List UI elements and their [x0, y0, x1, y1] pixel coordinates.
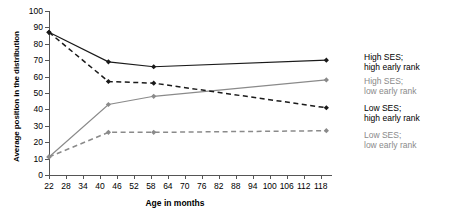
- legend-label-line2: low early rank: [364, 86, 416, 96]
- legend-label-line1: High SES;: [364, 76, 416, 86]
- data-point-marker: [324, 58, 329, 63]
- y-tick-label: 70: [21, 55, 43, 65]
- legend-label-line2: low early rank: [364, 140, 416, 150]
- x-tick-label: 22: [44, 181, 53, 191]
- data-point-marker: [106, 79, 111, 84]
- plot-area: 0102030405060708090100 22283440465258647…: [49, 11, 332, 175]
- y-tick-label: 50: [21, 88, 43, 98]
- x-tick-label: 58: [146, 181, 155, 191]
- x-tick-mark: [151, 175, 152, 179]
- legend-item-2[interactable]: Low SES;high early rank: [364, 103, 420, 123]
- x-tick-mark: [66, 175, 67, 179]
- data-point-marker: [151, 130, 156, 135]
- y-tick-label: 60: [21, 72, 43, 82]
- data-point-marker: [324, 77, 329, 82]
- legend-label-line2: high early rank: [364, 62, 420, 72]
- x-axis-title: Age in months: [30, 198, 320, 208]
- data-point-marker: [151, 81, 156, 86]
- data-point-marker: [106, 59, 111, 64]
- y-tick-label: 0: [21, 170, 43, 180]
- series-line-1: [49, 80, 326, 157]
- x-tick-label: 46: [112, 181, 121, 191]
- series-lines: [49, 11, 332, 175]
- y-tick-label: 10: [21, 154, 43, 164]
- x-tick-label: 76: [197, 181, 206, 191]
- x-tick-label: 106: [280, 181, 294, 191]
- legend-item-3[interactable]: Low SES;low early rank: [364, 130, 416, 150]
- data-point-marker: [324, 128, 329, 133]
- x-tick-label: 88: [231, 181, 240, 191]
- x-tick-label: 82: [214, 181, 223, 191]
- data-point-marker: [324, 105, 329, 110]
- x-tick-label: 64: [163, 181, 172, 191]
- legend-label-line1: Low SES;: [364, 130, 416, 140]
- legend-label-line1: High SES;: [364, 52, 420, 62]
- x-tick-mark: [185, 175, 186, 179]
- x-tick-label: 28: [61, 181, 70, 191]
- x-tick-mark: [253, 175, 254, 179]
- x-tick-label: 52: [129, 181, 138, 191]
- x-tick-label: 40: [95, 181, 104, 191]
- y-tick-label: 80: [21, 39, 43, 49]
- x-tick-label: 112: [297, 181, 311, 191]
- series-line-0: [49, 32, 326, 66]
- x-tick-mark: [304, 175, 305, 179]
- data-point-marker: [106, 130, 111, 135]
- y-tick-label: 30: [21, 121, 43, 131]
- x-tick-mark: [117, 175, 118, 179]
- y-tick-label: 40: [21, 104, 43, 114]
- legend-label-line1: Low SES;: [364, 103, 420, 113]
- legend-item-1[interactable]: High SES;low early rank: [364, 76, 416, 96]
- x-tick-mark: [202, 175, 203, 179]
- x-tick-label: 94: [248, 181, 257, 191]
- x-tick-mark: [321, 175, 322, 179]
- y-tick-label: 90: [21, 22, 43, 32]
- y-axis-title: Average position in the distribution: [12, 13, 21, 181]
- x-tick-mark: [270, 175, 271, 179]
- series-line-2: [49, 32, 326, 107]
- x-tick-mark: [287, 175, 288, 179]
- data-point-marker: [151, 94, 156, 99]
- x-tick-mark: [219, 175, 220, 179]
- x-tick-mark: [168, 175, 169, 179]
- x-tick-label: 100: [263, 181, 277, 191]
- y-tick-label: 20: [21, 137, 43, 147]
- legend-label-line2: high early rank: [364, 113, 420, 123]
- y-tick-label: 100: [21, 6, 43, 16]
- x-tick-label: 70: [180, 181, 189, 191]
- x-axis-line: [49, 175, 332, 176]
- series-line-3: [49, 131, 326, 157]
- legend-item-0[interactable]: High SES;high early rank: [364, 52, 420, 72]
- x-tick-mark: [49, 175, 50, 179]
- data-point-marker: [151, 64, 156, 69]
- x-tick-mark: [100, 175, 101, 179]
- x-tick-label: 118: [314, 181, 328, 191]
- x-tick-mark: [83, 175, 84, 179]
- x-tick-label: 34: [78, 181, 87, 191]
- chart-figure: Average position in the distribution Age…: [0, 0, 453, 217]
- x-tick-mark: [134, 175, 135, 179]
- x-tick-mark: [236, 175, 237, 179]
